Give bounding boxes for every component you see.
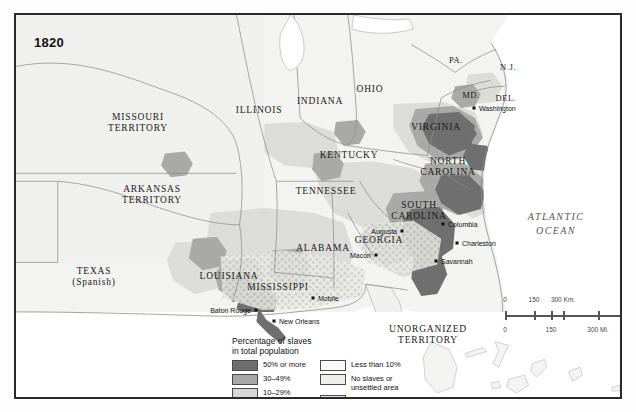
city-dot [473, 107, 476, 110]
scale-mi-label: 0 [503, 326, 507, 333]
scale-tick-mi-300 [598, 311, 600, 320]
map-frame: 1820 MISSOURITERRITORYARKANSASTERRITORYT… [14, 13, 622, 399]
legend-swatch [232, 388, 258, 399]
scale-km-labels: 0150300 Km. [505, 296, 621, 306]
legend-item-label: 30–49% [263, 374, 291, 384]
map-scale-bar: 0150300 Km. 0150300 Mi. [505, 296, 621, 336]
legend-item-label-line1: Less than 10% [351, 361, 401, 370]
scale-mi-label: 150 [546, 326, 557, 333]
city-dot [401, 230, 404, 233]
map-year-label: 1820 [34, 35, 64, 50]
scale-km-label: 0 [503, 296, 507, 303]
legend-item-label-line2: unsettled area [351, 384, 399, 393]
legend-item: 10–29% [232, 388, 306, 399]
legend-item-label: 10–29% [263, 388, 291, 398]
legend-swatch-cotton [320, 395, 346, 399]
legend-item: No slaves orunsettled area [320, 374, 401, 392]
map-legend: Percentage of slaves in total population… [232, 336, 412, 399]
city-dot [255, 309, 258, 312]
legend-item: 50% or more [232, 360, 306, 371]
legend-column-right: Less than 10%No slaves orunsettled areaA… [320, 360, 401, 399]
atlantic-ocean-water [483, 15, 620, 312]
scale-tick-km-150 [534, 311, 536, 320]
legend-item-label: Area of cottonproduction [351, 395, 398, 399]
legend-item: 30–49% [232, 374, 306, 385]
scale-bar-line [505, 315, 621, 317]
legend-item: Area of cottonproduction [320, 395, 401, 399]
legend-item-label: 50% or more [263, 360, 306, 370]
legend-title-line1: Percentage of slaves [232, 336, 412, 346]
scale-mi-label: 300 Mi. [587, 326, 608, 333]
legend-title: Percentage of slaves in total population [232, 336, 412, 356]
city-dot [375, 254, 378, 257]
city-dot [312, 297, 315, 300]
city-dot [273, 320, 276, 323]
legend-swatch [320, 360, 346, 371]
scale-km-label: 150 [529, 296, 540, 303]
scale-tick-km-300 [563, 311, 565, 320]
scale-tick-mi-150 [551, 311, 553, 320]
legend-item: Less than 10% [320, 360, 401, 371]
legend-item-label: Less than 10% [351, 360, 401, 370]
legend-title-line2: in total population [232, 346, 412, 356]
city-dot [456, 242, 459, 245]
legend-swatch [232, 374, 258, 385]
legend-swatch [320, 374, 346, 385]
city-dot [435, 260, 438, 263]
city-dot [442, 223, 445, 226]
scale-tick-0 [505, 311, 507, 320]
legend-column-left: 50% or more30–49%10–29% [232, 360, 306, 399]
legend-item-label: No slaves orunsettled area [351, 374, 399, 392]
legend-item-label-line1: Area of cotton [351, 396, 398, 399]
legend-swatch [232, 360, 258, 371]
scale-km-label: 300 Km. [551, 296, 575, 303]
scale-mi-labels: 0150300 Mi. [505, 326, 621, 336]
map-page: 1820 MISSOURITERRITORYARKANSASTERRITORYT… [0, 0, 636, 412]
